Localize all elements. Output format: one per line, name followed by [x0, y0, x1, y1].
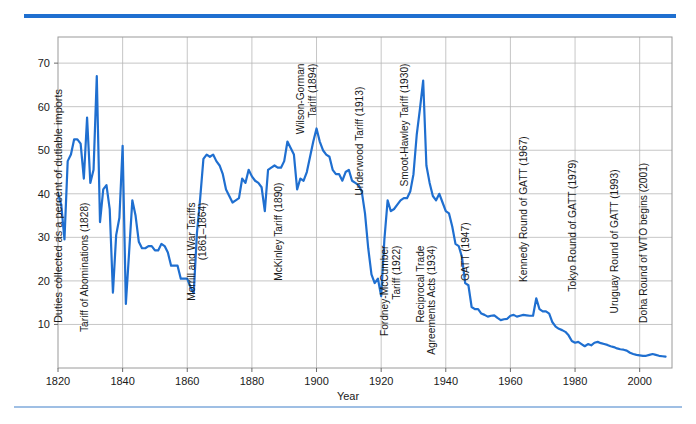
chart-annotation: Underwood Tariff (1913): [354, 87, 365, 196]
annotation-label: (1861–1864): [197, 203, 208, 261]
chart-annotation: Tokyo Round of GATT (1979): [567, 160, 578, 292]
annotation-label: Tariff (1894): [307, 64, 318, 118]
y-tick-label: 10: [38, 318, 50, 330]
annotation-label: Tariff (1922): [391, 246, 402, 300]
annotation-label: Doha Round of WTO begins (2001): [638, 163, 649, 323]
y-tick-label: 30: [38, 231, 50, 243]
y-tick-label: 40: [38, 188, 50, 200]
x-tick-label: 1960: [498, 375, 522, 387]
annotation-label: Reciprocal Trade: [415, 245, 426, 322]
chart-annotation: Kennedy Round of GATT (1967): [518, 136, 529, 282]
chart-annotation: Doha Round of WTO begins (2001): [638, 163, 649, 323]
annotation-label: Uruguay Round of GATT (1993): [609, 169, 620, 313]
annotation-label: Tokyo Round of GATT (1979): [567, 160, 578, 292]
chart-figure: 1020304050607018201840186018801900192019…: [0, 0, 696, 424]
x-tick-label: 1860: [175, 375, 199, 387]
annotation-label: GATT (1947): [460, 222, 471, 281]
annotation-label: Underwood Tariff (1913): [354, 87, 365, 196]
chart-annotation: GATT (1947): [460, 222, 471, 281]
y-tick-label: 70: [38, 57, 50, 69]
x-tick-label: 1980: [563, 375, 587, 387]
y-tick-label: 60: [38, 101, 50, 113]
x-tick-label: 1820: [46, 375, 70, 387]
chart-annotation: Tariff of Abominations (1828): [79, 203, 90, 333]
y-axis-label: Duties collected as a percent of dutiabl…: [52, 56, 64, 356]
chart-annotation: Uruguay Round of GATT (1993): [609, 169, 620, 313]
annotation-label: Smoot-Hawley Tariff (1930): [399, 64, 410, 187]
y-tick-label: 20: [38, 275, 50, 287]
annotation-label: Agreements Acts (1934): [426, 246, 437, 355]
x-tick-label: 1840: [110, 375, 134, 387]
chart-annotation: Smoot-Hawley Tariff (1930): [399, 64, 410, 187]
y-tick-label: 50: [38, 144, 50, 156]
chart-annotation: McKinley Tariff (1890): [273, 183, 284, 281]
x-tick-label: 1900: [304, 375, 328, 387]
annotation-label: Morrill and War Tariffs: [186, 203, 197, 301]
tariff-line-chart: 1020304050607018201840186018801900192019…: [0, 0, 696, 424]
annotation-label: McKinley Tariff (1890): [273, 183, 284, 281]
x-tick-label: 1880: [240, 375, 264, 387]
annotation-label: Tariff of Abominations (1828): [79, 203, 90, 333]
decorative-rule-bottom: [14, 406, 682, 408]
x-tick-label: 2000: [627, 375, 651, 387]
annotation-label: Kennedy Round of GATT (1967): [518, 136, 529, 282]
x-tick-label: 1940: [434, 375, 458, 387]
x-tick-label: 1920: [369, 375, 393, 387]
x-axis-label: Year: [0, 390, 696, 402]
annotation-label: Wilson-Gorman: [295, 64, 306, 135]
annotation-label: Fordney-McCumber: [379, 245, 390, 336]
